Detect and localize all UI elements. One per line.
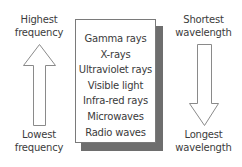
arrow-down-icon (0, 0, 242, 167)
